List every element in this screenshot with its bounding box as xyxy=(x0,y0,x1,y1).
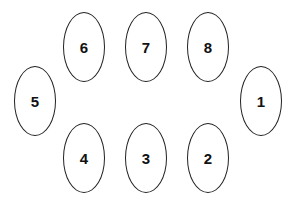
node-label: 3 xyxy=(142,151,150,166)
node-label: 5 xyxy=(31,94,39,109)
ellipse-node-7: 7 xyxy=(125,12,167,82)
node-label: 8 xyxy=(204,40,212,55)
node-label: 1 xyxy=(257,94,265,109)
ellipse-node-8: 8 xyxy=(187,12,229,82)
ellipse-node-3: 3 xyxy=(125,123,167,193)
ellipse-node-2: 2 xyxy=(187,123,229,193)
ellipse-node-5: 5 xyxy=(14,66,56,136)
ellipse-node-6: 6 xyxy=(63,12,105,82)
diagram-canvas: 1 2 3 4 5 6 7 8 xyxy=(0,0,296,209)
ellipse-node-1: 1 xyxy=(240,66,282,136)
node-label: 7 xyxy=(142,40,150,55)
node-label: 2 xyxy=(204,151,212,166)
node-label: 4 xyxy=(80,151,88,166)
node-label: 6 xyxy=(80,40,88,55)
ellipse-node-4: 4 xyxy=(63,123,105,193)
